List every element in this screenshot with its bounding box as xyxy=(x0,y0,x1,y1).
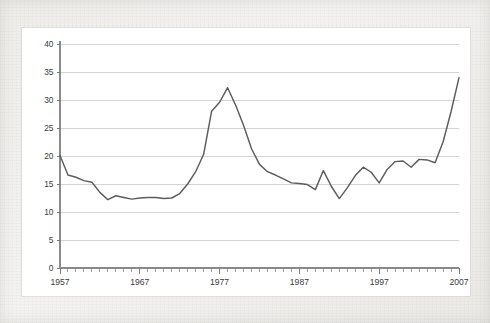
x-minor-ticks-group xyxy=(60,268,459,274)
x-tick-label: 1997 xyxy=(370,277,389,287)
figure-frame: 0510152025303540 19571967197719871997200… xyxy=(0,0,490,323)
axes-group xyxy=(57,41,460,268)
y-tick-label: 40 xyxy=(44,39,54,49)
x-tick-label: 1977 xyxy=(210,277,229,287)
gridlines-group xyxy=(60,44,459,240)
x-tick-label: 1957 xyxy=(50,277,69,287)
x-tick-labels-group: 195719671977198719972007 xyxy=(50,277,468,287)
x-tick-label: 1987 xyxy=(290,277,309,287)
y-tick-label: 20 xyxy=(44,151,54,161)
y-tick-label: 10 xyxy=(44,207,54,217)
x-tick-label: 2007 xyxy=(449,277,468,287)
y-tick-label: 5 xyxy=(49,235,54,245)
y-tick-labels-group: 0510152025303540 xyxy=(44,39,54,273)
chart-panel: 0510152025303540 19571967197719871997200… xyxy=(22,28,470,296)
data-series-group xyxy=(60,78,459,200)
y-tick-label: 15 xyxy=(44,179,54,189)
y-tick-label: 25 xyxy=(44,123,54,133)
y-tick-label: 30 xyxy=(44,95,54,105)
y-tick-label: 0 xyxy=(49,263,54,273)
line-chart: 0510152025303540 19571967197719871997200… xyxy=(22,28,470,296)
x-tick-label: 1967 xyxy=(130,277,149,287)
series-line-1 xyxy=(60,78,459,200)
y-tick-label: 35 xyxy=(44,67,54,77)
